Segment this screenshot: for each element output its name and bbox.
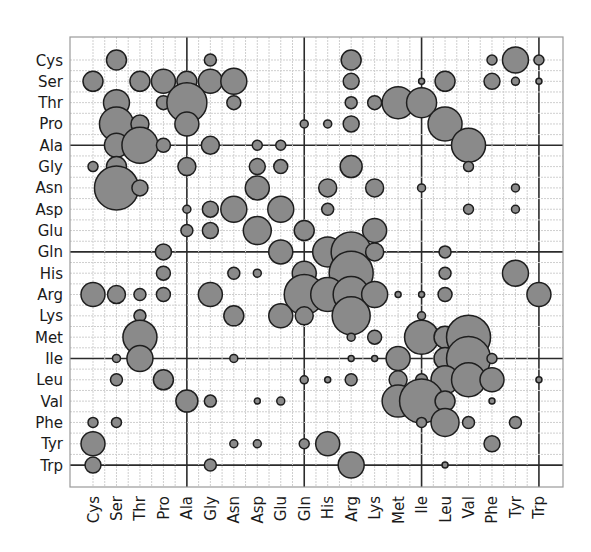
y-tick-label: Met xyxy=(35,329,63,347)
bubble-cys-ser xyxy=(106,50,126,70)
bubble-asp-ala xyxy=(183,205,191,213)
bubble-cys-phe xyxy=(487,55,497,65)
bubble-pro-arg xyxy=(343,116,359,132)
bubble-gly-ala xyxy=(178,158,196,176)
y-tick-label: His xyxy=(40,265,63,283)
chart-canvas: CysSerThrProAlaGlyAsnAspGluGlnHisArgLysM… xyxy=(0,0,591,552)
bubble-ala-asp xyxy=(252,140,262,150)
bubble-leu-pro xyxy=(153,370,173,390)
x-tick-label: Thr xyxy=(131,495,149,522)
y-tick-label: Thr xyxy=(37,94,64,112)
bubble-asp-val xyxy=(464,204,474,214)
bubble-ile-met xyxy=(386,346,410,370)
x-tick-label: Pro xyxy=(155,496,173,520)
bubble-leu-ser xyxy=(110,374,122,386)
bubble-phe-tyr xyxy=(509,416,521,428)
bubble-ile-thr xyxy=(127,345,153,371)
bubble-phe-leu xyxy=(431,408,459,436)
bubble-trp-arg xyxy=(338,452,364,478)
bubble-pro-his xyxy=(324,120,332,128)
bubble-ile-ser xyxy=(112,354,120,362)
bubble-ser-thr xyxy=(130,71,150,91)
bubble-leu-trp xyxy=(536,377,542,383)
bubble-asp-asn xyxy=(221,196,247,222)
y-tick-label: Ile xyxy=(45,350,63,368)
y-tick-label: Gly xyxy=(38,158,63,176)
x-tick-label: Ile xyxy=(413,496,431,514)
x-tick-label: Cys xyxy=(85,496,103,523)
bubble-arg-pro xyxy=(156,288,170,302)
x-tick-label: Ala xyxy=(178,496,196,520)
bubble-lys-gln xyxy=(295,307,313,325)
bubble-val-asp xyxy=(254,398,260,404)
y-tick-label: Cys xyxy=(36,52,63,70)
bubble-asn-ile xyxy=(418,184,426,192)
bubble-gln-leu xyxy=(439,246,451,258)
bubble-leu-gln xyxy=(300,376,308,384)
x-tick-label: Asp xyxy=(249,496,267,524)
bubble-met-lys xyxy=(368,330,382,344)
bubble-tyr-asn xyxy=(230,440,238,448)
bubble-gln-glu xyxy=(269,240,293,264)
bubble-trp-leu xyxy=(442,462,448,468)
bubble-gly-val xyxy=(464,162,474,172)
y-tick-label: Glu xyxy=(38,222,63,240)
bubble-his-tyr xyxy=(502,260,528,286)
y-tick-label: Tyr xyxy=(40,435,64,453)
bubble-ser-trp xyxy=(536,78,542,84)
y-tick-label: Lys xyxy=(39,307,63,325)
bubble-ile-asn xyxy=(230,354,238,362)
bubble-gly-glu xyxy=(274,160,288,174)
bubble-ala-thr xyxy=(122,127,158,163)
bubble-lys-asn xyxy=(224,306,244,326)
bubble-ala-gly xyxy=(201,136,219,154)
bubble-his-asp xyxy=(253,269,261,277)
bubble-arg-cys xyxy=(81,283,105,307)
bubble-gly-cys xyxy=(88,162,98,172)
bubble-glu-ala xyxy=(181,225,193,237)
bubble-leu-arg xyxy=(345,374,357,386)
bubble-phe-ile xyxy=(417,417,427,427)
bubble-asn-thr xyxy=(132,180,148,196)
bubble-val-glu xyxy=(277,397,285,405)
bubble-gln-pro xyxy=(155,244,171,260)
x-axis-tick-labels: CysSerThrProAlaGlyAsnAspGluGlnHisArgLysM… xyxy=(85,495,549,524)
x-tick-label: Glu xyxy=(272,496,290,521)
y-tick-label: Pro xyxy=(39,115,63,133)
bubble-asn-lys xyxy=(366,179,384,197)
bubble-pro-ala xyxy=(175,112,199,136)
x-tick-label: Tyr xyxy=(507,495,525,519)
bubble-thr-arg xyxy=(345,97,357,109)
bubble-ser-phe xyxy=(484,73,500,89)
bubble-ala-pro xyxy=(156,138,170,152)
bubble-gly-asp xyxy=(249,159,265,175)
bubble-chart: CysSerThrProAlaGlyAsnAspGluGlnHisArgLysM… xyxy=(0,0,591,552)
bubble-lys-ile xyxy=(418,312,426,320)
bubble-cys-tyr xyxy=(502,47,528,73)
bubble-glu-asp xyxy=(243,217,271,245)
bubble-val-phe xyxy=(489,398,495,404)
bubble-cys-arg xyxy=(341,50,361,70)
bubble-met-arg xyxy=(347,333,355,341)
bubble-ala-val xyxy=(452,128,486,162)
y-axis-tick-labels: CysSerThrProAlaGlyAsnAspGluGlnHisArgLysM… xyxy=(35,52,64,475)
bubble-asp-gly xyxy=(202,201,218,217)
y-tick-label: Val xyxy=(41,393,63,411)
x-tick-label: Val xyxy=(460,496,478,518)
x-tick-label: Met xyxy=(390,496,408,524)
y-tick-label: Gln xyxy=(38,243,63,261)
y-tick-label: Asp xyxy=(35,201,63,219)
bubble-ile-phe xyxy=(487,353,497,363)
bubble-pro-gln xyxy=(300,120,308,128)
bubble-arg-trp xyxy=(527,283,551,307)
bubble-tyr-asp xyxy=(253,440,261,448)
bubble-asn-his xyxy=(319,179,337,197)
bubble-thr-lys xyxy=(368,96,382,110)
bubble-his-leu xyxy=(439,267,451,279)
y-tick-label: Phe xyxy=(35,414,63,432)
bubble-asp-tyr xyxy=(511,205,519,213)
bubble-lys-glu xyxy=(269,304,293,328)
bubble-val-gly xyxy=(204,395,216,407)
bubble-cys-trp xyxy=(534,55,544,65)
bubble-ile-lys xyxy=(372,355,378,361)
